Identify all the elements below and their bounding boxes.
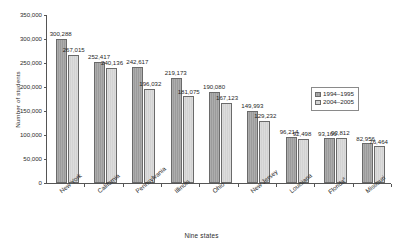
bar-2004-2005[interactable] bbox=[144, 89, 155, 183]
bar-value-label: 93,812 bbox=[331, 130, 350, 136]
bar-1994-1995[interactable] bbox=[209, 92, 220, 183]
x-tick-mark bbox=[391, 184, 392, 187]
x-tick-mark bbox=[84, 184, 85, 187]
x-tick-mark bbox=[161, 184, 162, 187]
legend-label-2004-2005: 2004–2005 bbox=[323, 99, 354, 105]
bar-value-label: 242,617 bbox=[126, 59, 148, 65]
bar-value-label: 129,232 bbox=[254, 113, 276, 119]
legend-item-series-0[interactable]: 1994–1995 bbox=[315, 91, 354, 99]
legend-swatch-1994-1995 bbox=[315, 92, 321, 98]
bar-value-label: 92,498 bbox=[293, 131, 312, 137]
bar-value-label: 267,015 bbox=[63, 47, 85, 53]
x-tick-mark bbox=[238, 184, 239, 187]
bar-value-label: 149,993 bbox=[241, 103, 263, 109]
bar-1994-1995[interactable] bbox=[56, 39, 67, 183]
bar-1994-1995[interactable] bbox=[286, 137, 297, 183]
bar-value-label: 167,123 bbox=[216, 95, 238, 101]
bar-group: 96,21492,498 bbox=[286, 15, 309, 183]
bar-value-label: 300,288 bbox=[50, 31, 72, 37]
legend-label-1994-1995: 1994–1995 bbox=[323, 91, 354, 97]
y-tick-label: 0 bbox=[4, 180, 42, 186]
bar-value-label: 181,075 bbox=[178, 89, 200, 95]
bar-group: 242,617196,032 bbox=[132, 15, 155, 183]
bar-1994-1995[interactable] bbox=[324, 138, 335, 183]
bar-2004-2005[interactable] bbox=[221, 103, 232, 183]
bar-1994-1995[interactable] bbox=[247, 111, 258, 183]
legend-item-series-1[interactable]: 2004–2005 bbox=[315, 99, 354, 107]
bar-value-label: 76,464 bbox=[369, 139, 388, 145]
y-tick-label: 200,000 bbox=[4, 84, 42, 90]
bar-value-label: 219,173 bbox=[165, 70, 187, 76]
x-tick-mark bbox=[353, 184, 354, 187]
x-tick-mark bbox=[199, 184, 200, 187]
y-tick-label: 250,000 bbox=[4, 60, 42, 66]
legend-swatch-2004-2005 bbox=[315, 100, 321, 106]
y-tick-label: 50,000 bbox=[4, 156, 42, 162]
bar-chart: Number of students 050,000100,000150,000… bbox=[0, 0, 403, 251]
bar-value-label: 240,136 bbox=[101, 60, 123, 66]
y-tick-label: 150,000 bbox=[4, 108, 42, 114]
y-tick-label: 100,000 bbox=[4, 132, 42, 138]
bar-group: 149,993129,232 bbox=[247, 15, 270, 183]
bar-2004-2005[interactable] bbox=[68, 55, 79, 183]
bar-2004-2005[interactable] bbox=[183, 96, 194, 183]
bar-group: 300,288267,015 bbox=[56, 15, 79, 183]
bar-2004-2005[interactable] bbox=[106, 68, 117, 183]
x-tick-mark bbox=[314, 184, 315, 187]
y-tick-label: 350,000 bbox=[4, 12, 42, 18]
x-tick-mark bbox=[123, 184, 124, 187]
bar-group: 252,417240,136 bbox=[94, 15, 117, 183]
bar-group: 82,95676,464 bbox=[362, 15, 385, 183]
x-axis-title: Nine states bbox=[0, 232, 403, 239]
legend: 1994–1995 2004–2005 bbox=[311, 87, 359, 111]
bar-value-label: 196,032 bbox=[139, 81, 161, 87]
bar-group: 219,173181,075 bbox=[171, 15, 194, 183]
bar-value-label: 190,080 bbox=[203, 84, 225, 90]
x-tick-mark bbox=[276, 184, 277, 187]
y-tick-label: 300,000 bbox=[4, 36, 42, 42]
bar-group: 190,080167,123 bbox=[209, 15, 232, 183]
bar-1994-1995[interactable] bbox=[94, 62, 105, 183]
bar-1994-1995[interactable] bbox=[362, 143, 373, 183]
